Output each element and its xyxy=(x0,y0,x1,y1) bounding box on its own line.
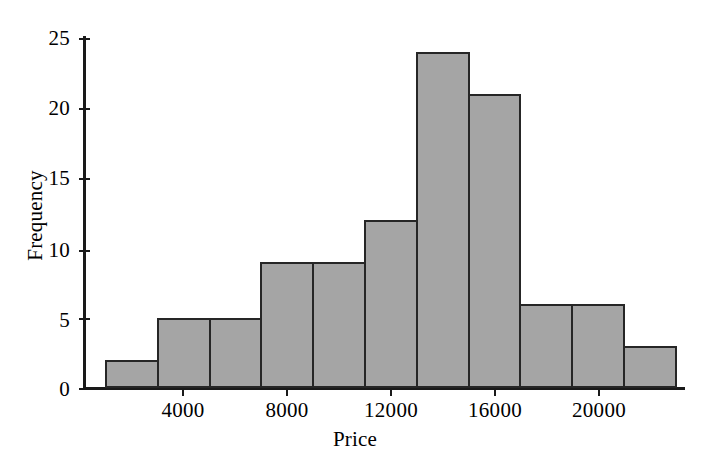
histogram-bar xyxy=(312,262,366,388)
histogram-figure: 25 20 15 10 5 0 4000 8000 12000 16000 20… xyxy=(0,0,710,470)
histogram-bar xyxy=(416,52,470,388)
histogram-bar xyxy=(157,318,211,388)
histogram-bar xyxy=(519,304,573,388)
histogram-bar xyxy=(105,360,159,388)
histogram-bar xyxy=(623,346,677,388)
histogram-bars xyxy=(0,0,710,470)
histogram-bar xyxy=(260,262,314,388)
histogram-bar xyxy=(364,220,418,388)
histogram-bar xyxy=(571,304,625,388)
histogram-bar xyxy=(209,318,263,388)
histogram-bar xyxy=(468,94,522,388)
